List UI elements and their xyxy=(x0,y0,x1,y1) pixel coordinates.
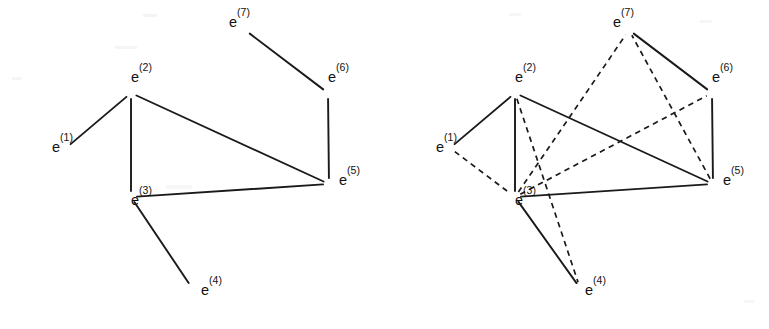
graph-edge-e6-e7 xyxy=(250,34,323,90)
right-graph-nodes: e(1)e(2)e(3)e(4)e(5)e(6)e(7) xyxy=(436,6,744,298)
graph-edge-e3-e5 xyxy=(137,184,323,196)
graph-edge-e3-e4 xyxy=(518,202,576,283)
node-label-e6: e(6) xyxy=(328,61,349,85)
node-label-e4: e(4) xyxy=(201,274,222,298)
node-label-e6: e(6) xyxy=(712,61,733,85)
node-label-e2: e(2) xyxy=(515,61,536,85)
left-graph-nodes: e(1)e(2)e(3)e(4)e(5)e(6)e(7) xyxy=(52,6,360,298)
right-graph-edges xyxy=(455,34,713,283)
node-label-e5: e(5) xyxy=(339,164,360,188)
graph-edge-e2-e5 xyxy=(136,96,323,182)
node-label-e2: e(2) xyxy=(131,61,152,85)
graph-edge-e1-e3 xyxy=(455,152,510,194)
node-label-e5: e(5) xyxy=(723,164,744,188)
node-label-e1: e(1) xyxy=(52,131,73,155)
graph-figure: e(1)e(2)e(3)e(4)e(5)e(6)e(7) e(1)e(2)e(3… xyxy=(0,0,769,329)
graph-edge-e5-e6 xyxy=(328,99,329,178)
graph-edge-e1-e2 xyxy=(455,97,511,144)
graph-edge-e1-e2 xyxy=(71,97,127,144)
graph-edge-e3-e7 xyxy=(518,35,625,192)
node-label-e4: e(4) xyxy=(585,274,606,298)
right-graph-panel: e(1)e(2)e(3)e(4)e(5)e(6)e(7) xyxy=(384,0,769,329)
graph-edge-e3-e6 xyxy=(520,96,706,194)
graph-edge-e5-e6 xyxy=(712,99,713,178)
graph-edge-e2-e5 xyxy=(520,96,707,182)
graph-edge-e5-e7 xyxy=(632,35,710,178)
graph-edge-e3-e4 xyxy=(134,202,188,283)
node-label-e1: e(1) xyxy=(436,131,457,155)
left-graph-edges xyxy=(71,34,329,283)
graph-edge-e6-e7 xyxy=(634,34,707,90)
node-label-e7: e(7) xyxy=(613,6,634,30)
node-label-e7: e(7) xyxy=(229,6,250,30)
left-graph-panel: e(1)e(2)e(3)e(4)e(5)e(6)e(7) xyxy=(0,0,384,329)
